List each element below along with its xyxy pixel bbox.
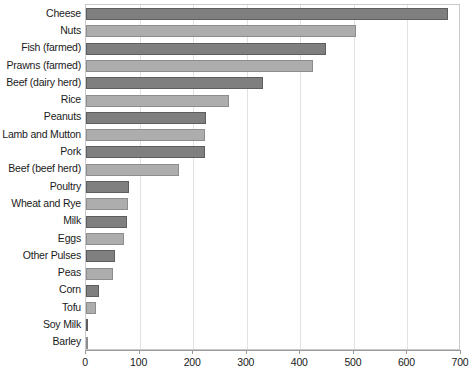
bar-chart: CheeseNutsFish (farmed)Prawns (farmed)Be… (0, 0, 470, 383)
y-axis-label: Soy Milk (0, 318, 81, 330)
y-axis-label: Barley (0, 335, 81, 347)
bar-milk[interactable] (86, 216, 127, 228)
x-tick-200 (192, 350, 193, 354)
y-axis-label: Peas (0, 266, 81, 278)
y-axis-category-labels: CheeseNutsFish (farmed)Prawns (farmed)Be… (0, 4, 81, 350)
bar-pork[interactable] (86, 146, 205, 158)
x-tick-0 (85, 350, 86, 354)
y-axis-label: Fish (farmed) (0, 41, 81, 53)
bar-row[interactable] (86, 126, 460, 145)
y-axis-label: Tofu (0, 301, 81, 313)
bar-row[interactable] (86, 230, 460, 249)
x-tick-400 (299, 350, 300, 354)
y-axis-label: Milk (0, 214, 81, 226)
bar-corn[interactable] (86, 285, 99, 297)
bar-barley[interactable] (86, 337, 88, 349)
bar-row[interactable] (86, 143, 460, 162)
y-axis-label: Wheat and Rye (0, 197, 81, 209)
y-axis-label: Peanuts (0, 110, 81, 122)
bar-prawns-farmed[interactable] (86, 60, 313, 72)
bar-rice[interactable] (86, 95, 229, 107)
y-axis-label: Lamb and Mutton (0, 128, 81, 140)
bar-row[interactable] (86, 195, 460, 214)
bar-row[interactable] (86, 22, 460, 41)
x-tick-label: 300 (237, 356, 254, 368)
bar-fish-farmed[interactable] (86, 43, 326, 55)
x-tick-100 (139, 350, 140, 354)
x-tick-700 (460, 350, 461, 354)
bar-poultry[interactable] (86, 181, 129, 193)
y-axis-label: Beef (beef herd) (0, 162, 81, 174)
bar-other-pulses[interactable] (86, 250, 115, 262)
x-tick-label: 500 (344, 356, 361, 368)
bar-cheese[interactable] (86, 8, 448, 20)
bar-row[interactable] (86, 178, 460, 197)
y-axis-label: Cheese (0, 7, 81, 19)
bar-row[interactable] (86, 299, 460, 318)
y-axis-label: Nuts (0, 24, 81, 36)
bar-row[interactable] (86, 161, 460, 180)
x-tick-600 (406, 350, 407, 354)
y-axis-label: Other Pulses (0, 249, 81, 261)
y-axis-label: Pork (0, 145, 81, 157)
bar-peas[interactable] (86, 268, 113, 280)
bar-row[interactable] (86, 265, 460, 284)
bar-row[interactable] (86, 282, 460, 301)
plot-area (85, 4, 460, 350)
bar-row[interactable] (86, 247, 460, 266)
bar-row[interactable] (86, 40, 460, 59)
bar-row[interactable] (86, 109, 460, 128)
y-axis-label: Beef (dairy herd) (0, 76, 81, 88)
x-tick-label: 700 (452, 356, 469, 368)
bar-beef-dairy-herd[interactable] (86, 77, 263, 89)
bar-row[interactable] (86, 213, 460, 232)
y-axis-label: Poultry (0, 180, 81, 192)
bar-nuts[interactable] (86, 25, 356, 37)
bar-wheat-and-rye[interactable] (86, 198, 128, 210)
x-tick-label: 0 (82, 356, 88, 368)
bar-eggs[interactable] (86, 233, 124, 245)
bar-lamb-and-mutton[interactable] (86, 129, 205, 141)
bar-row[interactable] (86, 57, 460, 76)
bar-row[interactable] (86, 316, 460, 335)
bar-row[interactable] (86, 74, 460, 93)
y-axis-label: Rice (0, 93, 81, 105)
bar-beef-beef-herd[interactable] (86, 164, 179, 176)
x-tick-label: 400 (291, 356, 308, 368)
y-axis-label: Prawns (farmed) (0, 59, 81, 71)
bar-row[interactable] (86, 5, 460, 24)
x-axis-line (85, 350, 460, 351)
bar-soy-milk[interactable] (86, 319, 88, 331)
x-tick-300 (246, 350, 247, 354)
bar-peanuts[interactable] (86, 112, 206, 124)
x-tick-label: 600 (398, 356, 415, 368)
bar-row[interactable] (86, 92, 460, 111)
bar-tofu[interactable] (86, 302, 96, 314)
x-tick-label: 200 (184, 356, 201, 368)
bars-layer (86, 5, 459, 349)
x-tick-label: 100 (130, 356, 147, 368)
y-axis-label: Corn (0, 283, 81, 295)
y-axis-label: Eggs (0, 232, 81, 244)
bar-row[interactable] (86, 334, 460, 350)
x-tick-500 (353, 350, 354, 354)
